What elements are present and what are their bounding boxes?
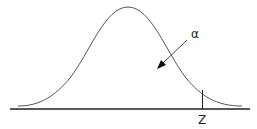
normal-curve-diagram: α Z [0,0,257,129]
bell-curve [18,7,242,106]
z-label: Z [198,113,206,127]
alpha-label: α [191,27,199,41]
